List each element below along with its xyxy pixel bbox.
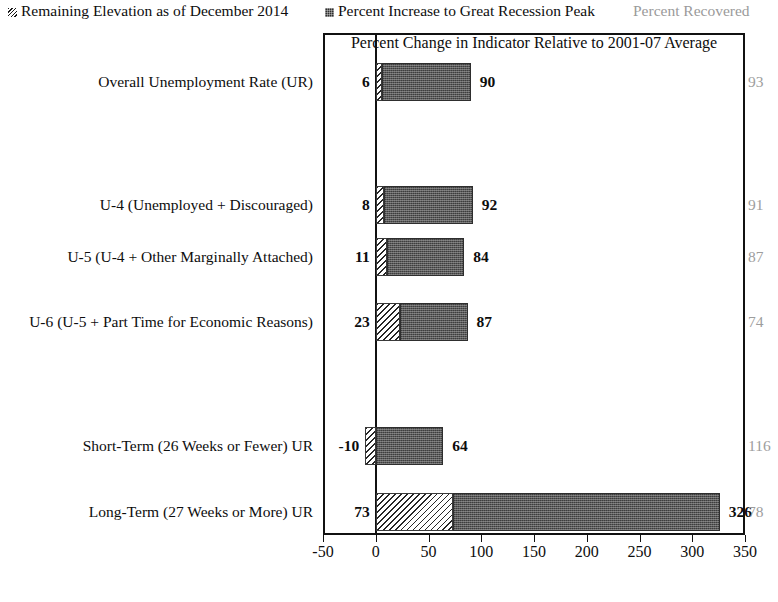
x-axis-tick-label: 350 [715,543,775,561]
bar-segment-peak-increase [382,63,471,101]
category-label: Long-Term (27 Weeks or More) UR [0,487,313,537]
x-axis-tick-label: 250 [610,543,670,561]
x-axis-tick [640,535,641,542]
bar-segment-remaining-elevation [365,427,376,465]
category-label: Short-Term (26 Weeks or Fewer) UR [0,421,313,471]
value-label-peak-increase: 64 [452,421,468,471]
bar-row: Long-Term (27 Weeks or More) UR7332678 [0,487,778,537]
bar-segment-peak-increase [453,493,720,531]
x-axis-tick-label: 200 [557,543,617,561]
value-label-remaining-elevation: 73 [314,487,370,537]
bar-segment-peak-increase [400,303,468,341]
x-axis-tick-label: 0 [346,543,406,561]
x-axis-tick-label: 150 [504,543,564,561]
x-axis-tick-label: 50 [399,543,459,561]
legend-entry-peak-increase: Percent Increase to Great Recession Peak [325,2,595,20]
legend-label-percent-recovered: Percent Recovered [633,2,750,20]
bar-row: U-6 (U-5 + Part Time for Economic Reason… [0,297,778,347]
hatched-swatch-icon [8,8,17,17]
value-label-peak-increase: 87 [477,297,493,347]
x-axis-tick [587,535,588,542]
bar-row: U-5 (U-4 + Other Marginally Attached)118… [0,232,778,282]
x-axis-tick [534,535,535,542]
legend-label-peak-increase: Percent Increase to Great Recession Peak [338,2,595,20]
category-label: U-4 (Unemployed + Discouraged) [0,180,313,230]
x-axis-tick-label: 100 [451,543,511,561]
bar-segment-peak-increase [376,427,444,465]
value-label-peak-increase: 84 [473,232,489,282]
value-label-percent-recovered: 91 [748,180,764,230]
bar-segment-remaining-elevation [376,303,400,341]
bar-segment-remaining-elevation [376,493,453,531]
bar-segment-remaining-elevation [376,238,388,276]
value-label-peak-increase: 92 [482,180,498,230]
legend-entry-percent-recovered: Percent Recovered [633,2,750,20]
x-axis-tick [376,535,377,542]
value-label-remaining-elevation: -10 [303,421,359,471]
value-label-percent-recovered: 78 [748,487,764,537]
legend-label-remaining-elevation: Remaining Elevation as of December 2014 [21,2,288,20]
x-axis-title: Percent Change in Indicator Relative to … [323,34,745,52]
value-label-remaining-elevation: 6 [314,57,370,107]
x-axis-tick [429,535,430,542]
x-axis-tick-label: 300 [662,543,722,561]
x-axis-tick-label: -50 [293,543,353,561]
value-label-percent-recovered: 87 [748,232,764,282]
x-axis-tick [692,535,693,542]
dotted-swatch-icon [325,8,334,17]
x-axis-tick [481,535,482,542]
value-label-remaining-elevation: 23 [314,297,370,347]
category-label: Overall Unemployment Rate (UR) [0,57,313,107]
value-label-percent-recovered: 93 [748,57,764,107]
category-label: U-5 (U-4 + Other Marginally Attached) [0,232,313,282]
bar-segment-peak-increase [387,238,464,276]
chart-legend: Remaining Elevation as of December 2014 … [0,0,778,26]
x-axis: -50050100150200250300350 [0,535,778,602]
legend-entry-remaining-elevation: Remaining Elevation as of December 2014 [8,2,288,20]
value-label-percent-recovered: 116 [748,421,771,471]
value-label-percent-recovered: 74 [748,297,764,347]
value-label-peak-increase: 90 [480,57,496,107]
category-label: U-6 (U-5 + Part Time for Economic Reason… [0,297,313,347]
bar-row: Overall Unemployment Rate (UR)69093 [0,57,778,107]
bar-segment-peak-increase [384,186,473,224]
value-label-remaining-elevation: 11 [314,232,370,282]
x-axis-tick [745,535,746,542]
bar-row: U-4 (Unemployed + Discouraged)89291 [0,180,778,230]
x-axis-tick [323,535,324,542]
bar-segment-remaining-elevation [376,186,384,224]
bar-row: Short-Term (26 Weeks or Fewer) UR-106411… [0,421,778,471]
value-label-remaining-elevation: 8 [314,180,370,230]
